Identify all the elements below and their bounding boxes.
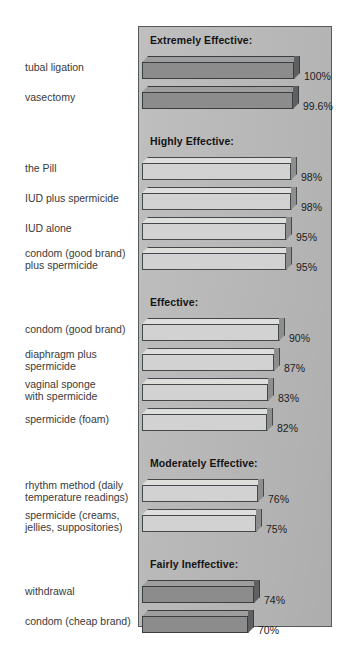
- bar-iud-alone: [142, 217, 292, 240]
- bar-side-face: [258, 479, 264, 502]
- bar-side-face: [248, 610, 254, 633]
- row-label-withdrawal: withdrawal: [25, 586, 137, 598]
- row-label-rhythm-method-daily-temperature-readings: rhythm method (daily temperature reading…: [25, 480, 137, 503]
- row-label-iud-plus-spermicide: IUD plus spermicide: [25, 193, 137, 205]
- section-header-fairly-ineffective: Fairly Ineffective:: [150, 558, 238, 570]
- row-label-condom-cheap-brand: condom (cheap brand): [25, 616, 137, 628]
- section-header-highly-effective: Highly Effective:: [150, 135, 234, 147]
- row-label-spermicide-foam: spermicide (foam): [25, 414, 137, 426]
- row-label-the-pill: the Pill: [25, 163, 137, 175]
- bar-front-face: [142, 384, 268, 401]
- bar-side-face: [286, 217, 292, 240]
- bar-rhythm-method-daily-temperature-readings: [142, 479, 264, 502]
- bar-front-face: [142, 92, 293, 109]
- row-label-diaphragm-plus-spermicide: diaphragm plus spermicide: [25, 349, 137, 372]
- row-label-condom-good-brand-plus-spermicide: condom (good brand) plus spermicide: [25, 248, 137, 271]
- row-label-iud-alone: IUD alone: [25, 223, 137, 235]
- bar-withdrawal: [142, 580, 260, 603]
- bar-tubal-ligation: [142, 56, 300, 79]
- section-header-moderately-effective: Moderately Effective:: [150, 457, 258, 469]
- row-label-vaginal-sponge-with-spermicide: vaginal sponge with spermicide: [25, 379, 137, 402]
- value-label-vaginal-sponge-with-spermicide: 83%: [278, 392, 299, 404]
- bar-iud-plus-spermicide: [142, 187, 297, 210]
- row-label-condom-good-brand: condom (good brand): [25, 324, 137, 336]
- bar-side-face: [274, 348, 280, 371]
- value-label-iud-plus-spermicide: 98%: [301, 201, 322, 213]
- row-label-spermicide-creams-jellies-suppositories: spermicide (creams, jellies, suppositori…: [25, 510, 137, 533]
- value-label-spermicide-creams-jellies-suppositories: 75%: [266, 523, 287, 535]
- row-label-vasectomy: vasectomy: [25, 92, 137, 104]
- bar-front-face: [142, 223, 286, 240]
- bar-side-face: [279, 318, 285, 341]
- bar-the-pill: [142, 157, 297, 180]
- section-header-effective: Effective:: [150, 296, 198, 308]
- bar-front-face: [142, 193, 291, 210]
- bar-spermicide-foam: [142, 408, 273, 431]
- value-label-the-pill: 98%: [301, 171, 322, 183]
- value-label-withdrawal: 74%: [264, 594, 285, 606]
- bar-side-face: [294, 56, 300, 79]
- bar-vaginal-sponge-with-spermicide: [142, 378, 274, 401]
- bar-front-face: [142, 163, 291, 180]
- value-label-condom-good-brand-plus-spermicide: 95%: [296, 261, 317, 273]
- bar-front-face: [142, 324, 279, 341]
- bar-side-face: [293, 86, 299, 109]
- bar-side-face: [268, 378, 274, 401]
- row-label-tubal-ligation: tubal ligation: [25, 62, 137, 74]
- bar-side-face: [254, 580, 260, 603]
- bar-front-face: [142, 414, 267, 431]
- bar-vasectomy: [142, 86, 299, 109]
- bar-front-face: [142, 354, 274, 371]
- bar-condom-good-brand: [142, 318, 285, 341]
- value-label-rhythm-method-daily-temperature-readings: 76%: [268, 493, 289, 505]
- section-header-extremely-effective: Extremely Effective:: [150, 34, 252, 46]
- bar-spermicide-creams-jellies-suppositories: [142, 509, 262, 532]
- value-label-iud-alone: 95%: [296, 231, 317, 243]
- value-label-tubal-ligation: 100%: [304, 70, 331, 82]
- bar-condom-good-brand-plus-spermicide: [142, 247, 292, 270]
- value-label-spermicide-foam: 82%: [277, 422, 298, 434]
- value-label-condom-cheap-brand: 70%: [258, 624, 279, 636]
- bar-front-face: [142, 62, 294, 79]
- value-label-vasectomy: 99.6%: [303, 100, 333, 112]
- bar-front-face: [142, 253, 286, 270]
- bar-front-face: [142, 485, 258, 502]
- bar-side-face: [267, 408, 273, 431]
- bar-diaphragm-plus-spermicide: [142, 348, 280, 371]
- bar-side-face: [286, 247, 292, 270]
- bar-front-face: [142, 515, 256, 532]
- bar-condom-cheap-brand: [142, 610, 254, 633]
- value-label-diaphragm-plus-spermicide: 87%: [284, 362, 305, 374]
- bar-side-face: [291, 157, 297, 180]
- bar-front-face: [142, 616, 248, 633]
- bar-side-face: [256, 509, 262, 532]
- bar-side-face: [291, 187, 297, 210]
- value-label-condom-good-brand: 90%: [289, 332, 310, 344]
- bar-front-face: [142, 586, 254, 603]
